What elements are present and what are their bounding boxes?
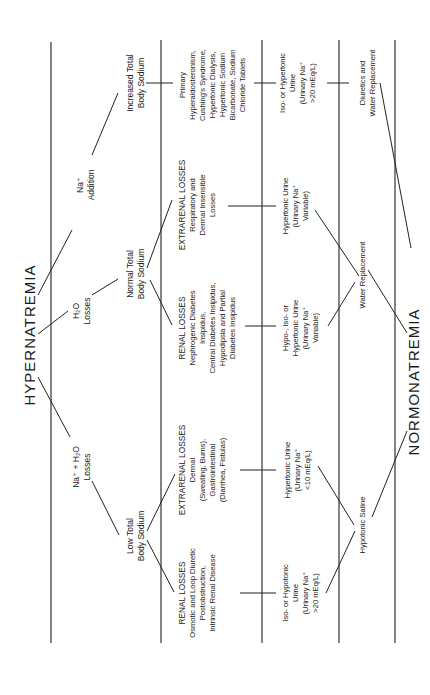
svg-text:Hypertonic Urine: Hypertonic Urine bbox=[283, 442, 292, 499]
svg-text:(Diarrhea, Fistulas): (Diarrhea, Fistulas) bbox=[218, 437, 227, 502]
urine-normal-extrarenal: Hypertonic Urine (Urinary Na⁺ Variable) bbox=[281, 178, 310, 235]
urine-low-renal: Iso- or Hypotonic Urine (Urinary Na⁺ >20… bbox=[281, 564, 320, 622]
svg-text:Iso- or Hypertonic: Iso- or Hypertonic bbox=[278, 53, 287, 113]
svg-text:Chloride Tablets: Chloride Tablets bbox=[238, 58, 247, 113]
svg-text:Bicarbonate, Sodium: Bicarbonate, Sodium bbox=[228, 50, 237, 121]
svg-text:Urine: Urine bbox=[291, 584, 300, 602]
svg-text:Hypertonic Sodium: Hypertonic Sodium bbox=[218, 53, 227, 117]
hypernatremia-flowchart: HYPERNATREMIA NORMONATREMIA Na⁺ Addition… bbox=[0, 0, 430, 695]
svg-text:Body Sodium: Body Sodium bbox=[136, 58, 146, 109]
title-hypernatremia: HYPERNATREMIA bbox=[21, 264, 38, 405]
svg-text:Osmotic and Loop Diuretic: Osmotic and Loop Diuretic bbox=[188, 548, 197, 638]
svg-text:Increased Total: Increased Total bbox=[125, 54, 135, 112]
svg-text:Losses: Losses bbox=[82, 454, 92, 481]
svg-text:<10 mEq/L): <10 mEq/L) bbox=[303, 450, 312, 490]
svg-text:Na⁺: Na⁺ bbox=[75, 177, 85, 193]
svg-text:Losses: Losses bbox=[208, 193, 217, 217]
svg-text:Diabetes Insipidus: Diabetes Insipidus bbox=[228, 297, 237, 359]
svg-text:Hyperaldosteronism,: Hyperaldosteronism, bbox=[188, 50, 197, 120]
svg-text:Na⁺ + H₂O: Na⁺ + H₂O bbox=[71, 446, 81, 488]
title-normonatremia: NORMONATREMIA bbox=[405, 309, 422, 456]
svg-text:Dermal Insensible: Dermal Insensible bbox=[198, 175, 207, 236]
mechanism-na-addition: Na⁺ Addition bbox=[75, 169, 96, 200]
treatment-normal: Water Replacement bbox=[358, 241, 367, 309]
svg-text:Central Diabetes Insipidus,: Central Diabetes Insipidus, bbox=[208, 283, 217, 374]
svg-text:H₂O: H₂O bbox=[71, 303, 81, 319]
svg-text:Hypertonic Urine: Hypertonic Urine bbox=[281, 178, 290, 235]
svg-text:Losses: Losses bbox=[82, 298, 92, 325]
urine-increased: Iso- or Hypertonic Urine (Urinary Na⁺ >2… bbox=[278, 53, 317, 113]
causes-increased: Primary Hyperaldosteronism, Cushing's Sy… bbox=[178, 49, 247, 121]
mechanism-na-h2o-losses: Na⁺ + H₂O Losses bbox=[71, 446, 92, 488]
svg-text:Normal Total: Normal Total bbox=[125, 250, 135, 298]
svg-text:Urine: Urine bbox=[288, 74, 297, 92]
causes-low-renal: RENAL LOSSES Osmotic and Loop Diuretic P… bbox=[177, 548, 217, 638]
svg-text:Iso- or Hypotonic: Iso- or Hypotonic bbox=[281, 564, 290, 622]
svg-text:Low Total: Low Total bbox=[125, 518, 135, 554]
svg-text:>20 mEq/L): >20 mEq/L) bbox=[311, 573, 320, 613]
svg-text:(Urinary Na⁺: (Urinary Na⁺ bbox=[301, 307, 310, 350]
svg-text:Hypo-, Iso- or: Hypo-, Iso- or bbox=[281, 305, 290, 351]
svg-text:(Sweating, Burns),: (Sweating, Burns), bbox=[198, 439, 207, 501]
body-sodium-normal: Normal Total Body Sodium bbox=[125, 249, 146, 300]
svg-text:Water Replacement: Water Replacement bbox=[358, 241, 367, 309]
mechanism-h2o-losses: H₂O Losses bbox=[71, 298, 92, 325]
svg-text:Intrinsic Renal Disease: Intrinsic Renal Disease bbox=[208, 554, 217, 632]
svg-text:Gastrointestinal: Gastrointestinal bbox=[208, 443, 217, 496]
svg-text:Respiratory and: Respiratory and bbox=[188, 178, 197, 232]
svg-text:(Urinary Na⁺: (Urinary Na⁺ bbox=[291, 185, 300, 228]
svg-text:Hypotonic Saline: Hypotonic Saline bbox=[358, 497, 367, 554]
svg-text:RENAL LOSSES: RENAL LOSSES bbox=[177, 296, 187, 359]
svg-text:EXTRARENAL LOSSES: EXTRARENAL LOSSES bbox=[177, 159, 187, 250]
svg-text:Insipidus,: Insipidus, bbox=[198, 312, 207, 344]
causes-normal-renal: RENAL LOSSES Nephrogenic Diabetes Insipi… bbox=[177, 283, 237, 374]
svg-text:Postobstruction,: Postobstruction, bbox=[198, 566, 207, 620]
causes-low-extrarenal: EXTRARENAL LOSSES Dermal (Sweating, Burn… bbox=[177, 424, 227, 515]
body-sodium-increased: Increased Total Body Sodium bbox=[125, 54, 146, 112]
urine-low-extrarenal: Hypertonic Urine (Urinary Na⁺ <10 mEq/L) bbox=[283, 442, 312, 499]
svg-text:(Urinary Na⁺: (Urinary Na⁺ bbox=[293, 449, 302, 492]
svg-text:(Urinary Na⁺: (Urinary Na⁺ bbox=[298, 62, 307, 105]
svg-text:Variable): Variable) bbox=[311, 313, 320, 343]
svg-text:RENAL LOSSES: RENAL LOSSES bbox=[177, 561, 187, 624]
svg-text:(Urinary Na⁺: (Urinary Na⁺ bbox=[301, 572, 310, 615]
svg-text:Addition: Addition bbox=[86, 169, 96, 200]
treatment-increased: Diuretics and Water Replacement bbox=[358, 49, 377, 117]
body-sodium-low: Low Total Body Sodium bbox=[125, 511, 146, 562]
svg-text:Cushing's Syndrome,: Cushing's Syndrome, bbox=[198, 49, 207, 121]
svg-text:Nephrogenic Diabetes: Nephrogenic Diabetes bbox=[188, 290, 197, 365]
urine-normal-renal: Hypo-, Iso- or Hypertonic Urine (Urinary… bbox=[281, 300, 320, 357]
svg-text:Hypodipsia and Partial: Hypodipsia and Partial bbox=[218, 290, 227, 366]
svg-text:Primary: Primary bbox=[178, 72, 187, 98]
svg-text:Variable): Variable) bbox=[301, 191, 310, 221]
svg-text:Dermal: Dermal bbox=[188, 457, 197, 482]
svg-text:Hypertonic Urine: Hypertonic Urine bbox=[291, 300, 300, 357]
svg-text:Diuretics and: Diuretics and bbox=[358, 61, 367, 105]
svg-text:Body Sodium: Body Sodium bbox=[136, 249, 146, 300]
svg-text:>20 mEq/L): >20 mEq/L) bbox=[308, 63, 317, 103]
svg-text:Body Sodium: Body Sodium bbox=[136, 511, 146, 562]
svg-text:Water Replacement: Water Replacement bbox=[368, 49, 377, 117]
svg-text:EXTRARENAL LOSSES: EXTRARENAL LOSSES bbox=[177, 424, 187, 515]
treatment-low: Hypotonic Saline bbox=[358, 497, 367, 554]
causes-normal-extrarenal: EXTRARENAL LOSSES Respiratory and Dermal… bbox=[177, 159, 217, 250]
svg-text:Hypertonic Dialysis,: Hypertonic Dialysis, bbox=[208, 52, 217, 119]
